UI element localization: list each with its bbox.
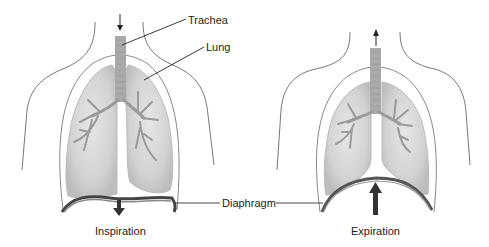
expiration-panel bbox=[276, 29, 470, 215]
respiration-diagram: Trachea Lung Diaphragm Inspiration Expir… bbox=[0, 0, 489, 247]
diaphragm-label: Diaphragm bbox=[222, 197, 276, 209]
right-lung bbox=[126, 65, 173, 193]
trachea-label: Trachea bbox=[188, 14, 228, 26]
inspiration-label: Inspiration bbox=[95, 225, 146, 237]
trachea-leader-line bbox=[122, 19, 186, 45]
air-out-arrow-icon bbox=[373, 29, 379, 46]
lung-label: Lung bbox=[206, 41, 230, 53]
diaphragm-up-arrow-icon bbox=[369, 182, 382, 215]
expiration-label: Expiration bbox=[351, 225, 400, 237]
air-in-arrow-icon bbox=[117, 14, 123, 31]
left-lung bbox=[66, 65, 117, 198]
inspiration-panel bbox=[22, 14, 220, 216]
